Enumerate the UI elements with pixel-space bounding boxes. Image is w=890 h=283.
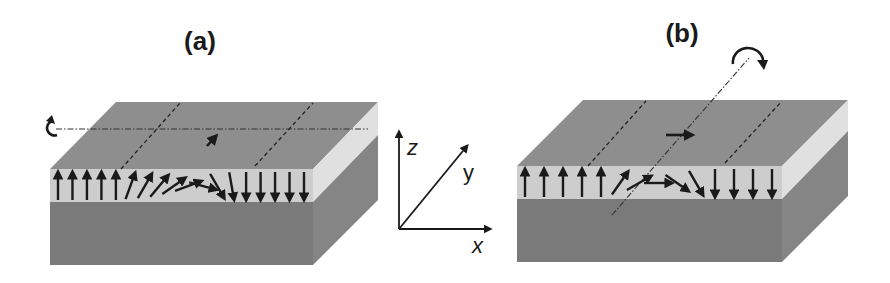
panel-b-substrate: [517, 199, 782, 262]
panel-b-rotation-icon: [733, 48, 768, 70]
panel-a: (a): [46, 26, 378, 265]
panel-a-rotation-icon: [46, 115, 57, 135]
figure-canvas: (a) z y x (b): [0, 0, 890, 283]
z-axis-label: z: [406, 135, 418, 160]
x-axis-label: x: [471, 233, 484, 258]
panel-b: (b): [517, 18, 848, 262]
panel-a-substrate: [50, 202, 313, 265]
panel-a-magnetic-layer: [50, 169, 313, 202]
coordinate-axes: z y x: [399, 132, 490, 258]
y-axis-label: y: [463, 160, 474, 185]
panel-b-label: (b): [665, 18, 698, 48]
panel-a-label: (a): [184, 26, 216, 56]
